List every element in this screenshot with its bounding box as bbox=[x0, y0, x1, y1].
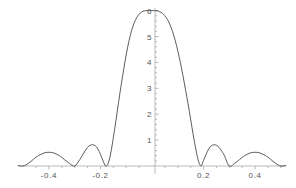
y-tick-label: 6 bbox=[147, 7, 152, 16]
plot-canvas: -0.4-0.20.20.4 123456 bbox=[0, 0, 296, 188]
y-tick-label: 4 bbox=[147, 58, 152, 67]
y-tick-label: 2 bbox=[147, 110, 152, 119]
x-tick-label: -0.4 bbox=[41, 171, 57, 180]
y-major-ticks bbox=[155, 11, 159, 141]
plot-figure: -0.4-0.20.20.4 123456 bbox=[0, 0, 296, 188]
x-tick-label: 0.4 bbox=[249, 171, 262, 180]
y-tick-label: 3 bbox=[147, 84, 152, 93]
x-tick-labels: -0.4-0.20.20.4 bbox=[41, 171, 262, 180]
y-tick-labels: 123456 bbox=[147, 7, 152, 146]
x-tick-label: -0.2 bbox=[92, 171, 108, 180]
y-tick-label: 1 bbox=[147, 136, 152, 145]
data-curve bbox=[18, 11, 286, 167]
x-tick-label: 0.2 bbox=[197, 171, 210, 180]
x-major-ticks bbox=[49, 166, 255, 170]
y-tick-label: 5 bbox=[147, 33, 152, 42]
